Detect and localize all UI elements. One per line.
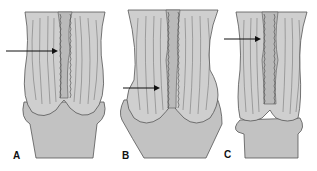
- panel-label-c: C: [224, 149, 231, 160]
- figure-canvas: [0, 0, 317, 171]
- panel-label-b: B: [122, 150, 129, 161]
- panel-b-illustration: [120, 10, 222, 158]
- panel-label-a: A: [13, 150, 20, 161]
- panel-a-illustration: [6, 12, 105, 158]
- panel-c-illustration: [224, 12, 307, 158]
